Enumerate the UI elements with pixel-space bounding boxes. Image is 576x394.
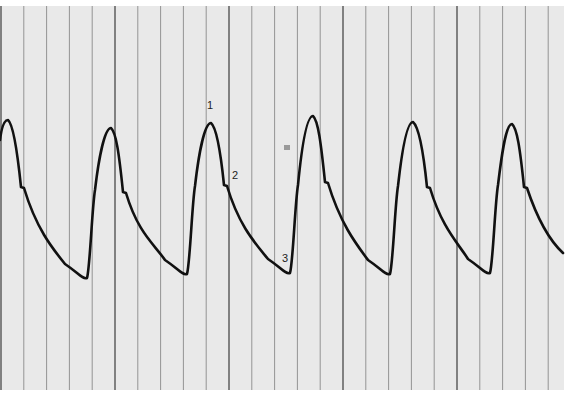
label-dicrotic-notch: 2: [232, 169, 238, 181]
label-systolic-peak: 1: [207, 99, 213, 111]
grid-lines: [1, 6, 548, 390]
waveform-figure: [0, 0, 576, 394]
paper-mark: [284, 145, 290, 150]
label-end-diastole: 3: [282, 252, 288, 264]
